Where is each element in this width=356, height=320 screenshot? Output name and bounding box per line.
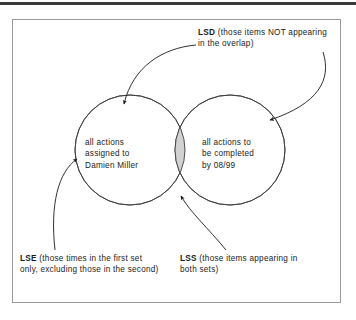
figure-page: all actions assigned to Damien Miller al… <box>0 0 356 320</box>
lse-code: LSE <box>20 254 37 263</box>
lse-leader <box>54 159 77 250</box>
lse-callout: LSE (those times in the first set only, … <box>20 253 160 276</box>
lsd-callout: LSD (those items NOT appearing in the ov… <box>198 27 330 50</box>
lss-code: LSS <box>180 254 197 263</box>
lss-description: (those items appearing in both sets) <box>180 254 298 274</box>
lsd-code: LSD <box>198 28 215 37</box>
lsd-description: (those items NOT appearing in the overla… <box>198 28 327 48</box>
lse-description: (those times in the first set only, excl… <box>20 254 159 274</box>
lsd-leader-right <box>270 52 326 120</box>
right-set-label: all actions to be completed by 08/99 <box>202 137 286 171</box>
lss-callout: LSS (those items appearing in both sets) <box>180 253 308 276</box>
left-set-label: all actions assigned to Damien Miller <box>85 137 165 171</box>
